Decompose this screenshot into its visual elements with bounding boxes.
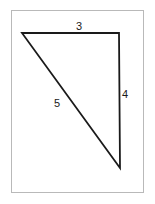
triangle-outline	[22, 33, 120, 168]
figure-container: 3 4 5	[0, 0, 155, 204]
side-label-top: 3	[76, 21, 82, 32]
side-label-right: 4	[122, 89, 128, 100]
side-label-hypotenuse: 5	[54, 98, 60, 109]
